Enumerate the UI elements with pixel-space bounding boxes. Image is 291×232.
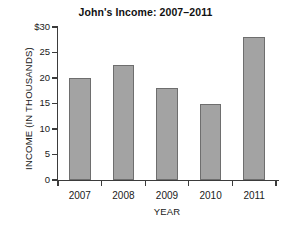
y-tick-label-text: 20	[2, 72, 50, 83]
bar	[243, 37, 265, 180]
y-tick-label-text: 5	[2, 148, 50, 159]
y-tick-mark	[52, 103, 58, 104]
y-tick-label-text: 0	[2, 174, 50, 185]
y-tick-label-text: 15	[2, 97, 50, 108]
y-tick-mark	[52, 128, 58, 129]
x-axis-line	[57, 180, 279, 181]
x-tick-mark	[188, 181, 189, 186]
chart-title: John's Income: 2007–2011	[0, 6, 291, 18]
x-tick-label: 2010	[189, 190, 233, 201]
bar	[113, 65, 135, 180]
y-tick-label: 5	[0, 148, 50, 160]
y-tick-label-text: 10	[2, 123, 50, 134]
y-tick-label: 25	[0, 46, 50, 58]
y-tick-label: 15	[0, 97, 50, 109]
bar-chart-figure: John's Income: 2007–2011 INCOME (IN THOU…	[0, 0, 291, 232]
y-tick-label: $30	[0, 21, 50, 33]
y-tick-label-text: $30	[2, 21, 50, 32]
x-tick-mark	[101, 181, 102, 186]
x-tick-mark	[232, 181, 233, 186]
bar	[69, 78, 91, 180]
x-tick-label: 2007	[58, 190, 102, 201]
y-tick-label: 0	[0, 174, 50, 186]
x-tick-label: 2008	[102, 190, 146, 201]
y-tick-label: 20	[0, 72, 50, 84]
y-tick-label-text: 25	[2, 46, 50, 57]
bar	[200, 104, 222, 181]
x-tick-mark	[57, 181, 58, 186]
x-tick-label: 2011	[232, 190, 276, 201]
x-tick-mark	[145, 181, 146, 186]
bar	[156, 88, 178, 180]
y-tick-mark	[52, 52, 58, 53]
x-tick-label: 2009	[145, 190, 189, 201]
y-tick-mark	[52, 77, 58, 78]
y-tick-mark	[52, 26, 58, 27]
x-axis-title: YEAR	[58, 206, 276, 217]
x-tick-mark	[275, 181, 276, 186]
y-tick-mark	[52, 154, 58, 155]
y-tick-label: 10	[0, 123, 50, 135]
